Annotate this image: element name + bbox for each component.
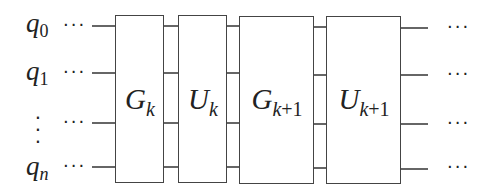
- gate-label-gk1: Gk+1: [240, 85, 314, 119]
- gate-label-uk: Uk: [179, 85, 227, 119]
- gate-label-uk1: Uk+1: [327, 85, 401, 119]
- qubit-label-vdots: ···: [33, 112, 43, 148]
- input-ellipsis-1: ···: [63, 63, 86, 81]
- input-ellipsis-2: ···: [63, 113, 86, 131]
- output-ellipsis-0: ···: [447, 18, 470, 36]
- output-ellipsis-3: ···: [447, 158, 470, 176]
- input-ellipsis-3: ···: [63, 157, 86, 175]
- qubit-label-q1: q1: [26, 58, 49, 88]
- gate-label-gk: Gk: [116, 85, 164, 119]
- output-ellipsis-1: ···: [447, 65, 470, 83]
- input-ellipsis-0: ···: [63, 16, 86, 34]
- qubit-label-q0: q0: [26, 10, 49, 40]
- qubit-label-qn: qn: [26, 153, 49, 183]
- output-ellipsis-2: ···: [447, 114, 470, 132]
